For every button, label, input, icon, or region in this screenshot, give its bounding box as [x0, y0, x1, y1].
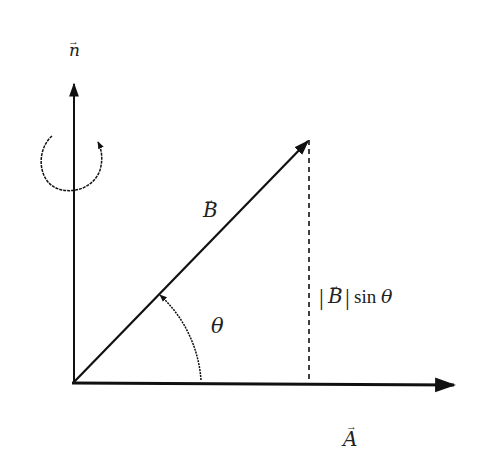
label-vector-b: B → [202, 193, 218, 222]
svg-text:→: → [329, 279, 340, 291]
label-theta: θ [211, 314, 224, 338]
vector-b-line [74, 141, 308, 382]
svg-text:→: → [346, 420, 357, 432]
label-normal-vector: n → [68, 35, 80, 60]
svg-text:θ: θ [381, 285, 393, 307]
angle-arc [160, 295, 201, 380]
svg-text:→: → [68, 35, 79, 47]
label-vector-a: A → [341, 420, 357, 451]
svg-text:|: | [319, 284, 324, 310]
vector-a-axis [72, 383, 454, 385]
cross-product-diagram: n → B → θ | B → | sin θ A → [0, 0, 481, 475]
rotation-arrow-icon [41, 136, 102, 191]
svg-text:|: | [345, 284, 350, 310]
svg-text:sin: sin [354, 286, 377, 307]
label-projection: | B → | sin θ [319, 279, 393, 310]
svg-text:→: → [204, 193, 215, 205]
